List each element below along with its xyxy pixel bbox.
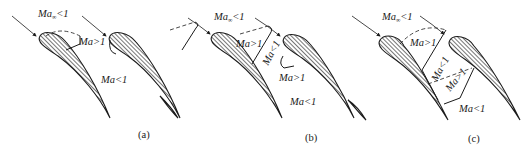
supersonic-label: Ma>1 [78, 36, 105, 47]
cascade-shock-diagram: Ma∞<1 Ma>1 Ma<1 (a) Ma∞<1 Ma>1 Ma<1 Ma>1… [0, 0, 530, 153]
freestream-label: Ma∞<1 [37, 8, 69, 20]
inflow-streamline [12, 16, 36, 36]
inflow-streamline [188, 18, 210, 34]
panel-caption: (b) [305, 132, 318, 144]
sonic-line [170, 22, 195, 30]
inflow-streamline [420, 16, 444, 34]
panel-b: Ma∞<1 Ma>1 Ma<1 Ma>1 Ma<1 (b) [160, 11, 354, 144]
panel-c: Ma∞<1 Ma>1 Ma<1 Ma>1 Ma<1 (c) [348, 11, 520, 145]
inflow-streamline [82, 16, 106, 36]
second-supersonic-label: Ma>1 [278, 72, 305, 83]
panel-caption: (c) [468, 133, 480, 145]
exit-mach-label: Ma<1 [100, 74, 127, 85]
shock-wave [281, 56, 294, 68]
sonic-line [240, 26, 268, 34]
exit-mach-label: Ma<1 [289, 96, 316, 107]
panel-caption: (a) [138, 129, 150, 141]
second-supersonic-label: Ma>1 [442, 66, 468, 94]
panel-a: Ma∞<1 Ma>1 Ma<1 (a) [12, 8, 180, 141]
supersonic-label: Ma>1 [235, 38, 262, 49]
exit-mach-label: Ma<1 [458, 103, 485, 114]
freestream-label: Ma∞<1 [213, 11, 245, 23]
freestream-label: Ma∞<1 [381, 11, 413, 23]
inflow-streamline [352, 16, 380, 36]
shock-wave [182, 22, 198, 50]
supersonic-label: Ma>1 [409, 37, 436, 48]
inflow-streamline [255, 18, 280, 36]
subsonic-label: Ma<1 [260, 39, 283, 68]
